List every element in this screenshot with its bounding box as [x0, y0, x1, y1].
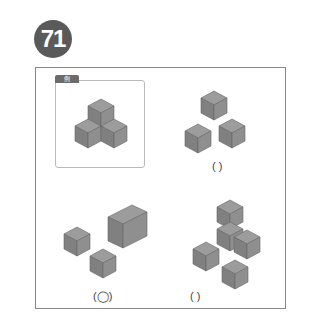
example-figure	[65, 92, 137, 162]
option-a-answer[interactable]: ( )	[212, 160, 222, 172]
option-a-figure[interactable]	[176, 82, 266, 162]
question-number-badge: 71	[34, 20, 72, 58]
option-b-answer[interactable]: (◯)	[93, 290, 112, 303]
option-b-figure[interactable]	[55, 196, 155, 286]
option-c-answer[interactable]: ( )	[190, 290, 200, 302]
example-tag: 例	[55, 75, 79, 83]
option-c-figure[interactable]	[185, 195, 275, 295]
